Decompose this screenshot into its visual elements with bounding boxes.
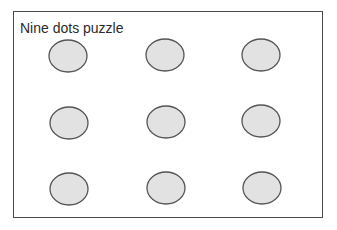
dot-r1-c3 bbox=[242, 39, 280, 71]
dot-r3-c1 bbox=[50, 173, 88, 205]
dot-r2-c2 bbox=[147, 106, 185, 138]
dot-r2-c1 bbox=[50, 107, 88, 139]
dot-r3-c2 bbox=[147, 172, 185, 204]
dots-grid bbox=[0, 0, 337, 230]
dot-r3-c3 bbox=[243, 172, 281, 204]
dot-r1-c2 bbox=[146, 39, 184, 71]
dot-r2-c3 bbox=[242, 105, 280, 137]
dot-r1-c1 bbox=[49, 40, 87, 72]
